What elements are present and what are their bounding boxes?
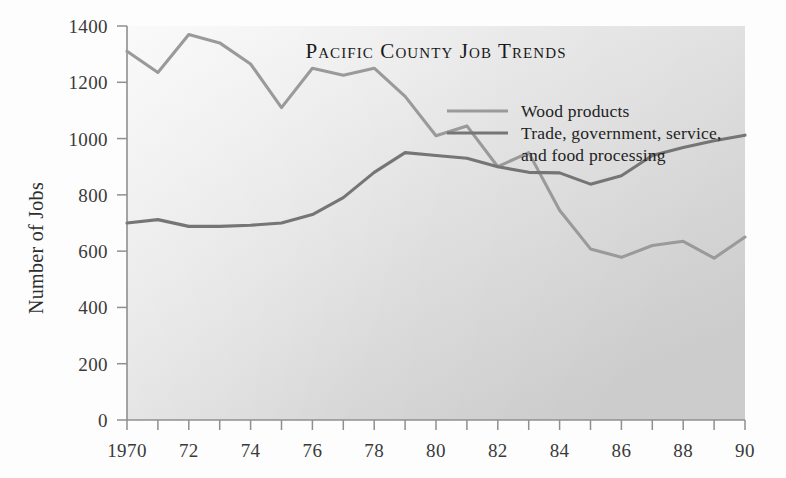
chart-figure: 0200400600800100012001400 19707274767880… [0,0,786,478]
y-tick-label: 1400 [68,16,108,37]
chart-title: Pacific County Job Trends [305,39,566,63]
x-axis-tick-labels: 197072747678808284868890 [107,440,755,461]
x-tick-label: 80 [426,440,446,461]
y-tick-label: 1200 [68,72,108,93]
legend-label-trade-government-line2: and food processing [521,145,666,165]
x-tick-label: 86 [611,440,631,461]
x-axis-ticks [127,420,745,430]
y-axis-tick-labels: 0200400600800100012001400 [68,16,108,431]
x-tick-label: 78 [364,440,384,461]
x-tick-label: 74 [241,440,261,461]
x-tick-label: 82 [488,440,508,461]
plot-area-highlight [127,26,745,420]
x-tick-label: 72 [179,440,199,461]
y-tick-label: 600 [78,241,108,262]
y-tick-label: 200 [78,354,108,375]
job-trends-line-chart: 0200400600800100012001400 19707274767880… [0,0,786,478]
y-tick-label: 800 [78,185,108,206]
y-tick-label: 400 [78,297,108,318]
x-tick-label: 76 [302,440,322,461]
y-tick-label: 0 [98,410,108,431]
x-tick-label: 88 [673,440,693,461]
legend-label-wood-products: Wood products [521,101,630,121]
x-tick-label: 84 [550,440,570,461]
y-axis-title: Number of Jobs [25,182,47,314]
y-tick-label: 1000 [68,129,108,150]
x-tick-label: 1970 [107,440,147,461]
legend-label-trade-government-line1: Trade, government, service, [521,123,722,143]
x-tick-label: 90 [735,440,755,461]
